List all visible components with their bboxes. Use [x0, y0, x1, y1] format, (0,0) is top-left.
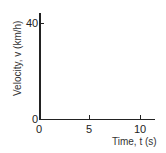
y-axis: [39, 13, 41, 120]
x-tick-label-10: 10: [134, 124, 146, 135]
x-axis-label: Time, t (s): [112, 136, 157, 147]
x-axis: [39, 119, 155, 121]
x-tick-10: [140, 115, 142, 119]
x-tick-label-5: 5: [86, 124, 92, 135]
y-axis-label: Velocity, v (km/h): [12, 21, 23, 96]
x-tick-label-0: 0: [36, 124, 42, 135]
y-tick-label-40: 40: [26, 18, 38, 29]
y-tick-40: [39, 23, 44, 25]
x-tick-5: [89, 115, 91, 119]
